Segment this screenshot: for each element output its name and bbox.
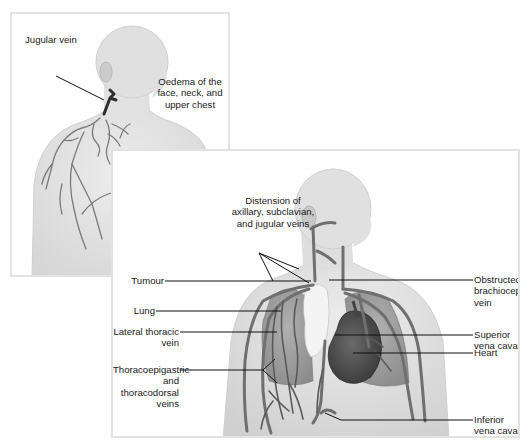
svc-obstruction-main-panel: Distension of axillary, subclavian, and … [111, 149, 520, 438]
label-distension: Distension of axillary, subclavian, and … [217, 195, 329, 229]
distension-leader-1 [259, 253, 299, 269]
label-lateral-thoracic-vein: Lateral thoracic vein [113, 326, 179, 349]
label-oedema: Oedema of the face, neck, and upper ches… [150, 76, 230, 110]
label-tumour: Tumour [113, 275, 164, 286]
label-obstructed-brachiocephalic-vein: Obstructed brachiocephalic vein [474, 274, 520, 308]
label-jugular-vein: Jugular vein [25, 34, 77, 45]
label-heart: Heart [474, 347, 497, 358]
jugular-leader-line [56, 76, 104, 100]
label-inferior-vena-cava: Inferior vena cava [474, 414, 518, 437]
label-lung: Lung [113, 305, 155, 316]
label-thoracoepigastric-veins: Thoracoepigastric and thoracodorsal vein… [113, 364, 179, 410]
jugular-vein [313, 227, 315, 281]
